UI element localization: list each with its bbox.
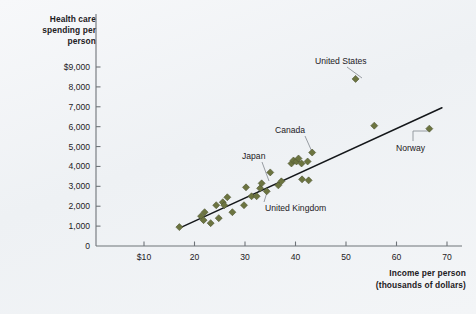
data-point-marker bbox=[305, 177, 312, 184]
data-point-marker bbox=[371, 122, 378, 129]
annotation-leader-line bbox=[413, 131, 428, 141]
data-point-marker bbox=[215, 215, 222, 222]
data-point-marker bbox=[309, 149, 316, 156]
data-point-marker bbox=[267, 169, 274, 176]
trend-line bbox=[179, 108, 442, 228]
data-point-marker bbox=[304, 158, 311, 165]
data-points bbox=[176, 75, 433, 230]
data-point-marker bbox=[176, 224, 183, 231]
data-point-marker bbox=[240, 202, 247, 209]
scatter-plot-canvas bbox=[0, 0, 476, 314]
data-point-marker bbox=[229, 209, 236, 216]
data-point-marker bbox=[299, 176, 306, 183]
chart-figure: Health care spending per person Income p… bbox=[0, 0, 476, 314]
data-point-marker bbox=[224, 194, 231, 201]
data-point-marker bbox=[207, 220, 214, 227]
data-point-marker bbox=[243, 184, 250, 191]
axes bbox=[96, 14, 462, 246]
regression-line bbox=[179, 108, 442, 228]
data-point-marker bbox=[213, 202, 220, 209]
annotation-leader-lines bbox=[262, 67, 428, 202]
data-point-marker bbox=[352, 75, 359, 82]
